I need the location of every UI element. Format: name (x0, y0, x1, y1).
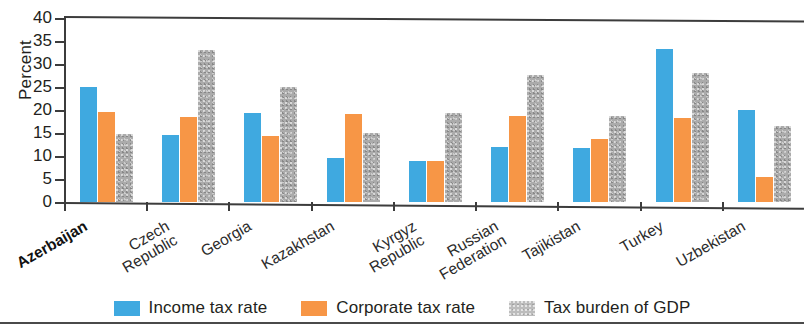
bar-income (80, 87, 97, 202)
y-tick-label: 40 (18, 9, 52, 26)
bar-group (573, 16, 626, 202)
y-tick-label: 30 (18, 55, 52, 72)
bar-burden (692, 73, 709, 202)
x-tick-mark (722, 202, 724, 211)
bar-corporate (262, 136, 279, 202)
bar-income (656, 49, 673, 202)
x-tick-mark (146, 202, 148, 211)
bar-group (327, 16, 380, 202)
x-tick-mark (311, 202, 313, 211)
bar-group (656, 16, 709, 202)
bar-group (491, 16, 544, 202)
y-tick-mark (55, 179, 64, 181)
y-tick-mark (55, 18, 64, 20)
y-tick-mark (55, 41, 64, 43)
legend-swatch-burden-icon (509, 301, 535, 316)
bar-corporate (756, 177, 773, 202)
bar-burden (445, 113, 462, 202)
x-tick-mark (64, 202, 66, 211)
bar-corporate (180, 117, 197, 202)
bar-burden (363, 133, 380, 202)
y-tick-label: 35 (18, 32, 52, 49)
y-tick-label: 10 (18, 147, 52, 164)
y-tick-mark (55, 133, 64, 135)
y-tick-mark (55, 156, 64, 158)
bar-burden (527, 75, 544, 202)
legend-item-income: Income tax rate (114, 298, 268, 318)
bar-income (573, 148, 590, 202)
bar-income (327, 158, 344, 202)
y-tick-mark (55, 202, 64, 204)
y-tick-mark (55, 87, 64, 89)
bar-corporate (674, 118, 691, 202)
bar-corporate (427, 161, 444, 202)
y-tick-label: 25 (18, 78, 52, 95)
bar-income (738, 110, 755, 202)
bar-group (738, 16, 791, 202)
y-tick-label: 5 (18, 170, 52, 187)
bar-corporate (98, 112, 115, 202)
legend-label-burden: Tax burden of GDP (544, 298, 690, 318)
chart-legend: Income tax rate Corporate tax rate Tax b… (0, 296, 804, 320)
y-tick-mark (55, 110, 64, 112)
plot-area: 0510152025303540 (64, 16, 804, 204)
bar-income (162, 135, 179, 202)
bar-income (244, 113, 261, 202)
legend-label-income: Income tax rate (149, 298, 268, 318)
y-tick-mark (55, 64, 64, 66)
legend-item-corporate: Corporate tax rate (301, 298, 475, 318)
bar-corporate (509, 116, 526, 202)
legend-swatch-income-icon (114, 301, 140, 316)
bar-burden (198, 50, 215, 202)
bar-burden (609, 116, 626, 202)
y-tick-label: 15 (18, 124, 52, 141)
bar-group (409, 16, 462, 202)
y-axis-line (64, 16, 66, 204)
page-bottom-rule (0, 322, 804, 324)
x-axis-line (64, 202, 804, 210)
x-tick-mark (228, 202, 230, 211)
bar-burden (774, 126, 791, 202)
bar-burden (280, 87, 297, 202)
legend-item-burden: Tax burden of GDP (509, 298, 690, 318)
bar-group (244, 16, 297, 202)
x-tick-mark (393, 202, 395, 211)
bar-income (491, 147, 508, 202)
bar-group (162, 16, 215, 202)
y-tick-label: 0 (18, 193, 52, 210)
bar-corporate (591, 139, 608, 202)
y-tick-label: 20 (18, 101, 52, 118)
legend-label-corporate: Corporate tax rate (336, 298, 475, 318)
bar-chart-figure: Percent 0510152025303540 AzerbaijanCzech… (0, 0, 804, 328)
bar-group (80, 16, 133, 202)
x-tick-mark (557, 202, 559, 211)
bar-burden (116, 134, 133, 202)
x-tick-mark (640, 202, 642, 211)
legend-swatch-corporate-icon (301, 301, 327, 316)
x-tick-mark (475, 202, 477, 211)
bar-corporate (345, 114, 362, 202)
bar-income (409, 161, 426, 202)
